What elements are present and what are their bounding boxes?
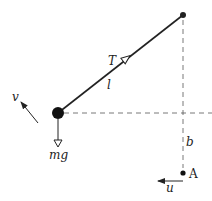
pendulum-bob [52,107,64,119]
pendulum-diagram: T l mg v b A u [0,0,212,201]
velocity-label: v [12,90,19,104]
length-label: l [107,78,111,92]
pendulum-string [58,15,183,113]
height-label: b [186,135,194,149]
tension-label: T [108,54,117,68]
pivot-point [180,12,186,18]
weight-arrowhead-icon [54,140,62,147]
velocity-arrow [21,102,38,123]
weight-label: mg [49,148,68,162]
point-a [180,170,185,175]
point-velocity-label: u [166,181,174,195]
point-a-label: A [188,167,198,181]
